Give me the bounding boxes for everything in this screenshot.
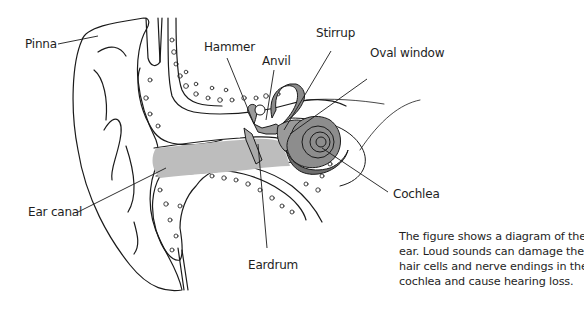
label-ear-canal: Ear canal	[28, 205, 82, 219]
label-cochlea: Cochlea	[393, 187, 440, 201]
label-stirrup: Stirrup	[316, 26, 355, 40]
caption-line: hair cells and nerve endings in the	[399, 259, 584, 274]
label-pinna: Pinna	[25, 37, 57, 51]
label-oval-window: Oval window	[370, 46, 444, 60]
caption-line: cochlea and cause hearing loss.	[399, 274, 584, 289]
label-eardrum: Eardrum	[248, 258, 298, 272]
pinna-leader	[58, 36, 98, 44]
caption-line: The figure shows a diagram of the	[399, 229, 584, 244]
label-anvil: Anvil	[262, 54, 291, 68]
figure-caption: The figure shows a diagram of the ear. L…	[399, 229, 584, 289]
label-hammer: Hammer	[204, 40, 255, 54]
caption-line: ear. Loud sounds can damage the	[399, 244, 584, 259]
